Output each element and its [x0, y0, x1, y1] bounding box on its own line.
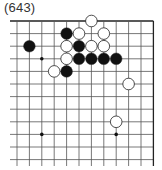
star-point-icon — [114, 133, 118, 137]
go-board — [0, 0, 162, 170]
black-stone — [98, 53, 110, 65]
white-stone — [48, 66, 60, 78]
black-stone — [86, 53, 98, 65]
black-stone — [61, 28, 73, 40]
white-stone — [61, 40, 73, 52]
black-stone — [24, 40, 36, 52]
black-stone — [61, 66, 73, 78]
black-stone — [73, 40, 85, 52]
white-stone — [110, 116, 122, 128]
white-stone — [86, 40, 98, 52]
white-stone — [98, 40, 110, 52]
black-stone — [110, 53, 122, 65]
star-point-icon — [40, 57, 44, 61]
white-stone — [86, 15, 98, 27]
white-stone — [61, 53, 73, 65]
white-stone — [73, 28, 85, 40]
white-stone — [98, 28, 110, 40]
black-stone — [73, 53, 85, 65]
white-stone — [123, 78, 135, 90]
star-point-icon — [40, 133, 44, 137]
